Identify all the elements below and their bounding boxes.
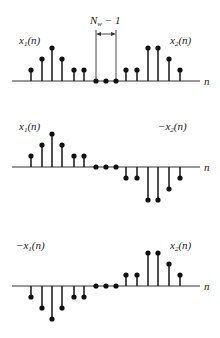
signal-label-left: x1(n) bbox=[18, 120, 41, 134]
sample-dot bbox=[59, 142, 64, 147]
signal-label-right: x2(n) bbox=[169, 239, 192, 253]
sample-dot bbox=[177, 175, 182, 180]
sample-dot bbox=[123, 175, 128, 180]
sample-dot bbox=[93, 283, 98, 288]
sample-dot bbox=[155, 197, 160, 202]
sample-dot bbox=[71, 294, 76, 299]
signal-label-left: −x1(n) bbox=[16, 239, 45, 253]
sample-dot bbox=[49, 316, 54, 321]
sample-dot bbox=[166, 261, 171, 266]
sample-dot bbox=[145, 197, 150, 202]
signal-label-left: x1(n) bbox=[18, 34, 41, 48]
sample-dot bbox=[103, 283, 108, 288]
stem-plot-figure: Nw − 1 nx1(n)x2(n)nx1(n)−x2(n)n−x1(n)x2(… bbox=[0, 0, 220, 338]
sample-dot bbox=[81, 67, 86, 72]
gap-bracket: Nw − 1 bbox=[89, 14, 120, 81]
sample-dot bbox=[39, 305, 44, 310]
sample-dot bbox=[103, 78, 108, 83]
sample-dot bbox=[177, 67, 182, 72]
gap-label: Nw − 1 bbox=[89, 14, 120, 28]
sample-dot bbox=[155, 250, 160, 255]
panel-1: nx1(n)x2(n) bbox=[12, 34, 210, 87]
sample-dot bbox=[49, 45, 54, 50]
sample-dot bbox=[28, 294, 33, 299]
sample-dot bbox=[145, 45, 150, 50]
sample-dot bbox=[113, 164, 118, 169]
sample-dot bbox=[123, 272, 128, 277]
sample-dot bbox=[103, 164, 108, 169]
n-axis-label: n bbox=[204, 280, 210, 292]
sample-dot bbox=[39, 56, 44, 61]
sample-dot bbox=[177, 272, 182, 277]
signal-label-right: x2(n) bbox=[169, 34, 192, 48]
sample-dot bbox=[59, 56, 64, 61]
n-axis-label: n bbox=[204, 161, 210, 173]
signal-label-right: −x2(n) bbox=[158, 120, 187, 134]
sample-dot bbox=[123, 67, 128, 72]
sample-dot bbox=[71, 67, 76, 72]
sample-dot bbox=[134, 67, 139, 72]
sample-dot bbox=[166, 186, 171, 191]
sample-dot bbox=[71, 153, 76, 158]
sample-dot bbox=[134, 272, 139, 277]
sample-dot bbox=[145, 250, 150, 255]
sample-dot bbox=[81, 153, 86, 158]
sample-dot bbox=[28, 67, 33, 72]
sample-dot bbox=[49, 131, 54, 136]
sample-dot bbox=[155, 45, 160, 50]
sample-dot bbox=[134, 175, 139, 180]
sample-dot bbox=[113, 78, 118, 83]
panel-2: nx1(n)−x2(n) bbox=[12, 120, 210, 203]
sample-dot bbox=[166, 56, 171, 61]
sample-dot bbox=[59, 305, 64, 310]
sample-dot bbox=[39, 142, 44, 147]
sample-dot bbox=[93, 78, 98, 83]
sample-dot bbox=[28, 153, 33, 158]
sample-dot bbox=[81, 294, 86, 299]
sample-dot bbox=[93, 164, 98, 169]
sample-dot bbox=[113, 283, 118, 288]
n-axis-label: n bbox=[204, 75, 210, 87]
panel-3: n−x1(n)x2(n) bbox=[12, 239, 210, 322]
